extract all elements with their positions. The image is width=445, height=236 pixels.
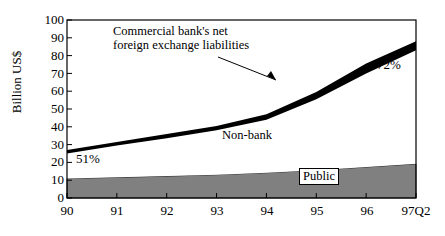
left-percent-label: 51% (76, 152, 100, 166)
series-callout-line2: foreign exchange liabilities (113, 38, 249, 52)
right-percent-label: 72% (377, 58, 401, 72)
nonbank-area-label: Non-bank (222, 128, 272, 142)
series-callout-line1: Commercial bank's net (113, 24, 249, 38)
public-area-label: Public (299, 168, 339, 185)
x-tick-95: 95 (295, 203, 339, 219)
x-tick-90: 90 (45, 203, 89, 219)
x-tick-94: 94 (245, 203, 289, 219)
chart-figure: Billion US$ 100 90 80 70 60 50 40 30 20 … (0, 0, 445, 236)
x-tick-93: 93 (195, 203, 239, 219)
x-tick-92: 92 (145, 203, 189, 219)
series-callout-label: Commercial bank's net foreign exchange l… (113, 24, 249, 52)
x-tick-97q2: 97Q2 (394, 203, 438, 219)
x-tick-96: 96 (345, 203, 389, 219)
x-tick-91: 91 (95, 203, 139, 219)
